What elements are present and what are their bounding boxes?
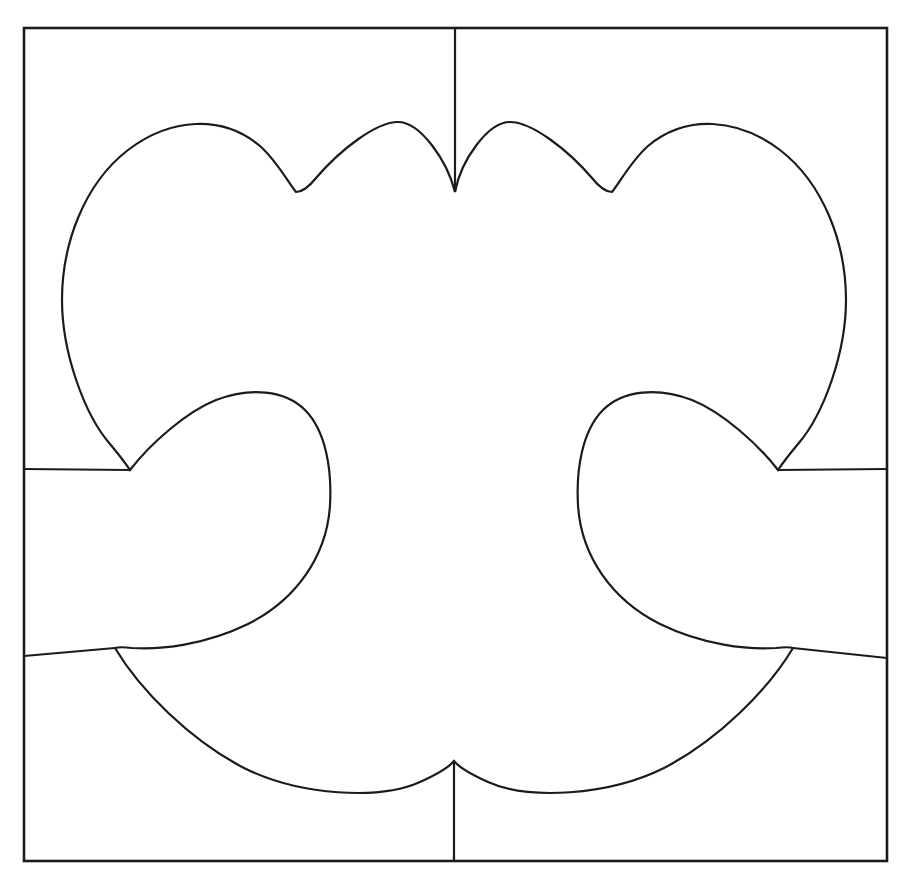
left-upper-seam — [24, 469, 130, 470]
figure-root: Symmetric lobed cut-out pattern in squar… — [0, 0, 901, 880]
line-art-diagram: Symmetric lobed cut-out pattern in squar… — [0, 0, 901, 880]
right-upper-seam — [778, 469, 887, 470]
